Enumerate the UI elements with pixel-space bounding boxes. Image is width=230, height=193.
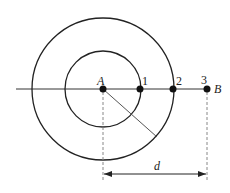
label-A: A xyxy=(96,74,105,88)
diagram-canvas: A 1 2 3 B d xyxy=(0,0,230,193)
label-2: 2 xyxy=(176,74,182,88)
radius-line xyxy=(103,89,157,137)
label-1: 1 xyxy=(142,74,148,88)
label-B: B xyxy=(214,82,222,96)
label-3: 3 xyxy=(201,73,207,87)
label-d: d xyxy=(154,159,161,173)
